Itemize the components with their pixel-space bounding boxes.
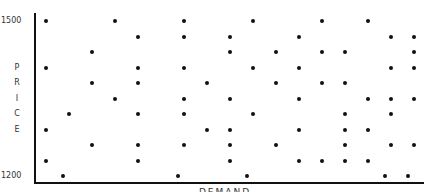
- data-point: [389, 66, 393, 70]
- data-point: [389, 143, 393, 147]
- scatter-chart: 1500 1200 P R I C E DEMAND: [0, 0, 426, 192]
- data-point: [274, 143, 278, 147]
- data-point: [320, 159, 324, 163]
- data-point: [366, 97, 370, 101]
- data-point: [113, 19, 117, 23]
- data-point: [182, 112, 186, 116]
- data-point: [297, 128, 301, 132]
- data-point: [412, 50, 416, 54]
- data-point: [412, 143, 416, 147]
- data-point: [136, 143, 140, 147]
- data-point: [205, 81, 209, 85]
- data-point: [136, 66, 140, 70]
- data-point: [251, 66, 255, 70]
- data-point: [251, 19, 255, 23]
- data-point: [182, 97, 186, 101]
- data-point: [90, 50, 94, 54]
- data-point: [297, 66, 301, 70]
- data-point: [412, 97, 416, 101]
- data-point: [406, 174, 410, 178]
- data-point: [136, 81, 140, 85]
- data-points: [0, 0, 426, 192]
- data-point: [383, 174, 387, 178]
- data-point: [44, 159, 48, 163]
- data-point: [389, 112, 393, 116]
- data-point: [205, 128, 209, 132]
- data-point: [274, 81, 278, 85]
- data-point: [136, 35, 140, 39]
- data-point: [136, 112, 140, 116]
- data-point: [228, 159, 232, 163]
- data-point: [343, 159, 347, 163]
- data-point: [176, 174, 180, 178]
- data-point: [44, 66, 48, 70]
- data-point: [228, 97, 232, 101]
- data-point: [182, 35, 186, 39]
- data-point: [412, 66, 416, 70]
- data-point: [320, 50, 324, 54]
- data-point: [182, 66, 186, 70]
- data-point: [343, 81, 347, 85]
- data-point: [389, 35, 393, 39]
- data-point: [182, 143, 186, 147]
- data-point: [90, 81, 94, 85]
- data-point: [366, 159, 370, 163]
- data-point: [90, 143, 94, 147]
- data-point: [297, 35, 301, 39]
- data-point: [412, 35, 416, 39]
- data-point: [136, 159, 140, 163]
- data-point: [343, 143, 347, 147]
- data-point: [297, 159, 301, 163]
- data-point: [389, 97, 393, 101]
- data-point: [366, 128, 370, 132]
- data-point: [251, 112, 255, 116]
- data-point: [67, 112, 71, 116]
- data-point: [44, 19, 48, 23]
- data-point: [182, 19, 186, 23]
- data-point: [274, 50, 278, 54]
- data-point: [320, 81, 324, 85]
- data-point: [297, 97, 301, 101]
- data-point: [366, 19, 370, 23]
- data-point: [228, 143, 232, 147]
- data-point: [245, 174, 249, 178]
- data-point: [320, 19, 324, 23]
- data-point: [343, 112, 347, 116]
- data-point: [228, 50, 232, 54]
- data-point: [228, 35, 232, 39]
- data-point: [343, 50, 347, 54]
- data-point: [228, 128, 232, 132]
- data-point: [44, 128, 48, 132]
- data-point: [61, 174, 65, 178]
- data-point: [113, 97, 117, 101]
- data-point: [343, 128, 347, 132]
